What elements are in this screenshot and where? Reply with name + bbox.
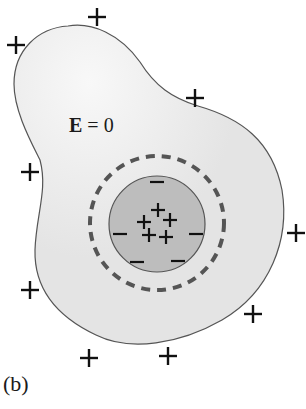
cavity — [109, 176, 205, 272]
plus-charge-icon — [21, 163, 39, 181]
plus-charge-icon — [21, 281, 39, 299]
plus-charge-icon — [88, 8, 106, 26]
plus-charge-icon — [80, 349, 98, 367]
field-value: 0 — [104, 114, 114, 136]
plus-charge-icon — [7, 36, 25, 54]
plus-charge-icon — [159, 347, 177, 365]
field-equals: = — [82, 114, 103, 136]
plus-charge-icon — [244, 305, 262, 323]
conductor-diagram — [0, 0, 306, 409]
panel-label: (b) — [3, 371, 29, 397]
field-label: E = 0 — [69, 114, 114, 137]
field-symbol: E — [69, 114, 82, 136]
plus-charge-icon — [287, 224, 305, 242]
